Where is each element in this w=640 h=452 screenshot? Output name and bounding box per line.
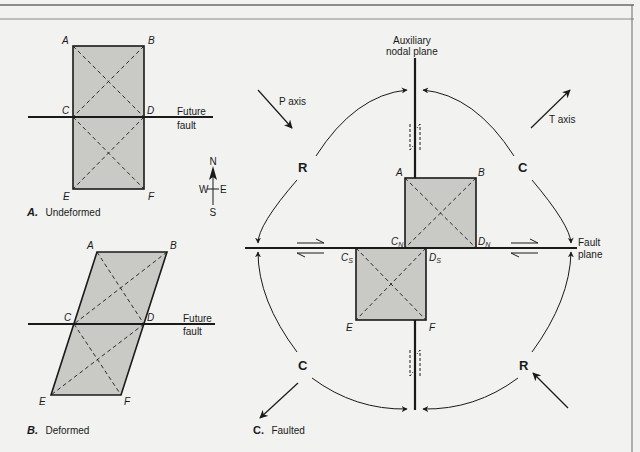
point-c: C <box>64 312 72 323</box>
fault-mechanism-figure: A B C D E F Future fault A. Undeformed N… <box>0 0 640 452</box>
quadrant-se-r: R <box>519 358 529 373</box>
p-axis-label: P axis <box>279 96 306 107</box>
point-e: E <box>39 396 46 407</box>
compass-rose: N W E S <box>199 156 227 218</box>
t-axis-label: T axis <box>549 114 576 125</box>
future-fault-label-2: fault <box>183 326 202 337</box>
point-cn: CN <box>391 236 404 248</box>
point-f: F <box>124 396 131 407</box>
point-f: F <box>429 322 436 333</box>
point-e: E <box>63 191 70 202</box>
point-a: A <box>395 167 403 178</box>
point-cs: CS <box>341 252 353 264</box>
point-b: B <box>170 240 177 251</box>
point-f: F <box>148 191 155 202</box>
fault-plane-label-1: Fault <box>578 237 600 248</box>
p-axis-arrow-se <box>533 373 568 408</box>
fault-plane-label-2: plane <box>578 249 603 260</box>
point-a: A <box>61 35 69 46</box>
point-e: E <box>346 322 353 333</box>
future-fault-label-2: fault <box>177 120 196 131</box>
compass-s: S <box>210 207 217 218</box>
future-fault-label-1: Future <box>183 313 212 324</box>
aux-plane-label-1: Auxiliary <box>393 35 431 46</box>
caption-c: C. Faulted <box>253 420 305 437</box>
caption-a: A. Undeformed <box>26 202 100 219</box>
quadrant-sw-c: C <box>298 358 308 373</box>
point-dn: DN <box>478 236 491 248</box>
future-fault-label-1: Future <box>177 106 206 117</box>
quadrant-nw-r: R <box>298 160 308 175</box>
t-axis-arrow-sw <box>260 383 298 418</box>
point-d: D <box>147 105 154 116</box>
point-b: B <box>148 35 155 46</box>
panel-b-deformed: A B C D E F Future fault B. Deformed <box>27 240 215 437</box>
point-ds: DS <box>429 252 441 264</box>
point-c: C <box>62 105 70 116</box>
compass-n: N <box>210 156 217 167</box>
panel-c-faulted: Auxiliary nodal plane Fault plane P axis… <box>245 35 603 437</box>
compass-w: W <box>199 184 209 195</box>
compass-e: E <box>220 184 227 195</box>
aux-plane-label-2: nodal plane <box>386 46 438 57</box>
point-d: D <box>147 312 154 323</box>
point-a: A <box>86 240 94 251</box>
caption-b: B. Deformed <box>27 420 89 437</box>
panel-a-undeformed: A B C D E F Future fault A. Undeformed <box>26 35 213 219</box>
point-b: B <box>478 167 485 178</box>
quadrant-ne-c: C <box>518 160 528 175</box>
